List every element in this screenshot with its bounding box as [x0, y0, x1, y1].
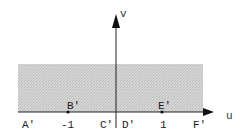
label-b-prime: B' — [67, 100, 80, 112]
label-a-prime: A' — [22, 119, 35, 131]
shaded-upper-half-plane — [18, 64, 203, 112]
tick-label-1: 1 — [160, 119, 167, 131]
label-e-prime: E' — [158, 100, 171, 112]
label-d-prime: D' — [122, 119, 135, 131]
label-f-prime: F' — [193, 119, 206, 131]
v-axis-arrow-icon — [112, 14, 120, 28]
tick-label-neg1: -1 — [61, 119, 75, 131]
uv-plane-diagram: v u B' E' A' -1 C' D' 1 F' — [0, 0, 244, 137]
label-c-prime: C' — [100, 119, 113, 131]
u-axis-label: u — [226, 110, 233, 122]
v-axis-label: v — [120, 8, 127, 20]
u-axis-arrow-icon — [203, 108, 214, 116]
